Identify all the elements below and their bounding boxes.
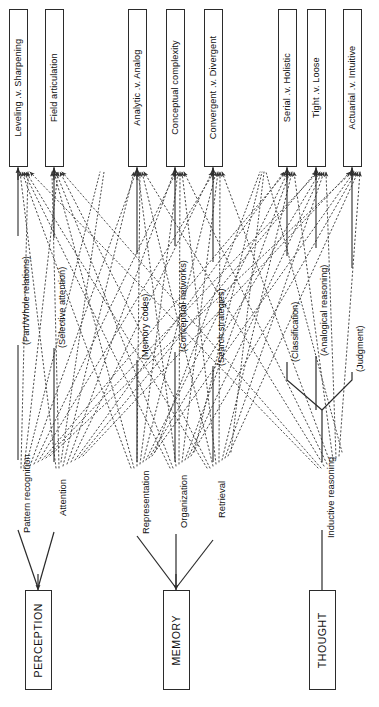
diagram-canvas: Leveling .v. Sharpening Field articulati… [0,0,379,707]
dimension-box-convergent-divergent[interactable]: Convergent .v. Divergent [204,9,223,167]
paren-label-classification: (Classification) [291,302,300,362]
dimension-label: Field articulation [50,54,59,123]
paren-label-memory-codes: (Memory codes) [141,294,150,360]
paren-label-conceptual-networks: (Conceptual networks) [179,260,188,352]
paren-label-analogical-reasoning: (Analogical reasoning) [320,265,329,356]
dimension-label: Serial .v. Holistic [283,53,292,122]
module-label: THOUGHT [317,612,328,668]
memory-convergence [137,534,213,588]
dimension-label: Leveling .v. Sharpening [14,39,23,137]
dimension-label: Analytic .v. Analog [133,50,142,126]
paren-label-search-strategies: (Search strategies) [217,288,226,366]
process-label-pattern-recognition: Pattern recognition [22,454,31,533]
dimension-box-tight-loose[interactable]: Tight .v. Loose [307,9,326,167]
process-label-organization: Organization [179,475,188,528]
dotted-link-group [20,172,360,468]
dimension-box-serial-holistic[interactable]: Serial .v. Holistic [278,9,297,167]
dimension-box-conceptual-complexity[interactable]: Conceptual complexity [166,9,185,167]
process-label-attention: Attention [58,479,67,516]
module-label: MEMORY [171,615,182,666]
paren-label-judgment: (Judgment) [356,326,365,372]
dimension-box-field-articulation[interactable]: Field articulation [45,9,64,167]
perception-convergence [18,530,54,588]
paren-label-part-whole-relations: (Part/Whole relations) [22,256,31,345]
dimension-box-actuarial-intuitive[interactable]: Actuarial .v. Intuitive [343,9,362,167]
dimension-box-leveling-sharpening[interactable]: Leveling .v. Sharpening [9,9,28,167]
process-label-retrieval: Retrieval [217,481,226,518]
dimension-label: Actuarial .v. Intuitive [348,46,357,130]
process-label-representation: Representation [141,470,150,534]
dimension-label: Tight .v. Loose [312,58,321,119]
module-label: PERCEPTION [33,603,44,677]
dimension-stem-group [18,167,352,268]
process-label-inductive-reasoning: Inductive reasoning [326,457,335,538]
dimension-label: Convergent .v. Divergent [209,36,218,139]
module-box-thought[interactable]: THOUGHT [309,590,336,690]
paren-label-selective-attention: (Selective attention) [58,267,67,348]
module-box-memory[interactable]: MEMORY [163,590,190,690]
module-box-perception[interactable]: PERCEPTION [25,590,52,690]
dimension-arrow-group [18,168,352,180]
dimension-box-analytic-analog[interactable]: Analytic .v. Analog [128,9,147,167]
dimension-label: Conceptual complexity [171,41,180,136]
